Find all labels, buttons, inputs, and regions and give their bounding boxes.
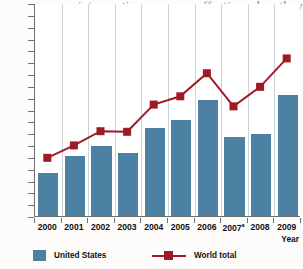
legend-label-world-total: World total xyxy=(194,251,237,260)
plot-area xyxy=(34,4,300,217)
x-axis-tick xyxy=(114,218,115,223)
category-separator xyxy=(168,4,169,216)
bar-2003 xyxy=(118,153,138,216)
bar-2009 xyxy=(278,95,298,216)
bar-2002 xyxy=(91,146,111,216)
x-axis-tick xyxy=(220,218,221,223)
x-axis-tick-label-2002: 2002 xyxy=(91,222,110,232)
x-axis-title: Year xyxy=(281,234,299,244)
category-separator xyxy=(274,4,275,216)
figure-container: intervention are more effective when the… xyxy=(0,0,303,269)
x-axis-tick xyxy=(247,218,248,223)
x-axis-tick xyxy=(140,218,141,223)
category-separator xyxy=(221,4,222,216)
category-separator xyxy=(248,4,249,216)
legend-item-world-total: World total xyxy=(152,250,237,261)
x-axis-tick xyxy=(167,218,168,223)
bar-2000 xyxy=(38,173,58,216)
x-axis-tick-label-2005: 2005 xyxy=(171,222,190,232)
x-axis-tick-label-2008: 2008 xyxy=(251,222,270,232)
bar-2004 xyxy=(145,128,165,216)
legend-swatch-icon xyxy=(33,250,46,261)
x-axis-tick-label-2001: 2001 xyxy=(64,222,83,232)
x-axis-tick xyxy=(273,218,274,223)
x-axis-tick-label-2003: 2003 xyxy=(118,222,137,232)
x-axis-tick xyxy=(61,218,62,223)
legend-line-marker-icon xyxy=(152,250,186,261)
legend-item-united-states: United States xyxy=(33,250,106,261)
chart-legend: United States World total xyxy=(0,250,303,266)
x-axis-tick-label-2007: 2007a xyxy=(222,222,244,233)
x-axis-tick-label-2006: 2006 xyxy=(197,222,216,232)
category-separator xyxy=(88,4,89,216)
category-separator xyxy=(115,4,116,216)
x-axis-tick-label-2009: 2009 xyxy=(277,222,296,232)
x-axis-tick-label-2004: 2004 xyxy=(144,222,163,232)
x-axis-tick xyxy=(300,218,301,223)
x-axis-tick xyxy=(34,218,35,223)
bar-2001 xyxy=(65,156,85,216)
chart: 01002003004005006007008009001 0001 1001 … xyxy=(0,0,303,269)
x-axis-tick xyxy=(87,218,88,223)
category-separator xyxy=(62,4,63,216)
bar-2006 xyxy=(198,100,218,216)
category-separator xyxy=(195,4,196,216)
bar-2008 xyxy=(251,134,271,216)
bar-2007 xyxy=(224,137,244,216)
x-axis-tick-label-2000: 2000 xyxy=(38,222,57,232)
x-axis-tick xyxy=(194,218,195,223)
bar-2005 xyxy=(171,120,191,216)
legend-label-united-states: United States xyxy=(54,251,106,260)
category-separator xyxy=(141,4,142,216)
